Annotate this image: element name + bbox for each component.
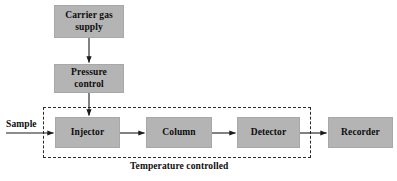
- injector-label: Injector: [56, 127, 119, 139]
- pressure-control-line2: control: [55, 79, 123, 91]
- carrier-gas-supply-line2: supply: [55, 22, 123, 34]
- block-carrier-gas-supply[interactable]: Carrier gas supply: [54, 5, 124, 38]
- block-recorder[interactable]: Recorder: [328, 117, 393, 148]
- block-detector[interactable]: Detector: [237, 117, 300, 148]
- detector-label: Detector: [238, 127, 299, 139]
- column-label: Column: [147, 127, 211, 139]
- carrier-gas-supply-line1: Carrier gas: [55, 10, 123, 22]
- pressure-control-line1: Pressure: [55, 67, 123, 79]
- sample-inlet-label: Sample: [6, 119, 37, 129]
- block-injector[interactable]: Injector: [55, 117, 120, 148]
- block-column[interactable]: Column: [146, 117, 212, 148]
- block-pressure-control[interactable]: Pressure control: [54, 64, 124, 93]
- temperature-controlled-caption: Temperature controlled: [130, 161, 228, 171]
- recorder-label: Recorder: [329, 127, 392, 139]
- diagram-canvas: Carrier gas supply Pressure control Inje…: [0, 0, 397, 181]
